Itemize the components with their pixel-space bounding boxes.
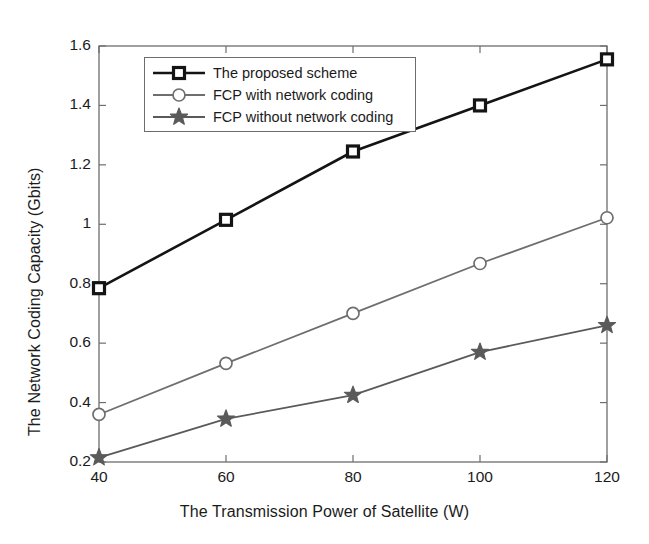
x-tick-label: 100: [450, 468, 510, 486]
chart-figure: The Network Coding Capacity (Gbits) The …: [0, 0, 649, 544]
y-tick-label: 0.6: [33, 333, 91, 351]
legend: The proposed scheme FCP with network cod…: [144, 57, 416, 132]
x-tick-label: 60: [196, 468, 256, 486]
x-tick-label: 80: [323, 468, 383, 486]
data-series-2: [90, 316, 615, 465]
legend-swatch-star-icon: [151, 106, 207, 128]
legend-item-proposed-scheme: The proposed scheme: [151, 62, 357, 84]
legend-label: The proposed scheme: [213, 65, 357, 81]
legend-swatch-circle-icon: [151, 84, 207, 106]
x-tick-label: 40: [69, 468, 129, 486]
legend-label: FCP without network coding: [213, 109, 393, 125]
y-tick-label: 1.2: [33, 155, 91, 173]
y-tick-label: 1.6: [33, 36, 91, 54]
legend-item-fcp-without-network-coding: FCP without network coding: [151, 106, 393, 128]
legend-label: FCP with network coding: [213, 87, 373, 103]
y-tick-label: 1: [33, 214, 91, 232]
y-tick-label: 0.4: [33, 393, 91, 411]
x-axis-label: The Transmission Power of Satellite (W): [0, 503, 649, 521]
x-tick-label: 120: [577, 468, 637, 486]
y-tick-label: 0.8: [33, 274, 91, 292]
y-tick-label: 1.4: [33, 95, 91, 113]
legend-item-fcp-with-network-coding: FCP with network coding: [151, 84, 373, 106]
legend-swatch-square-icon: [151, 62, 207, 84]
